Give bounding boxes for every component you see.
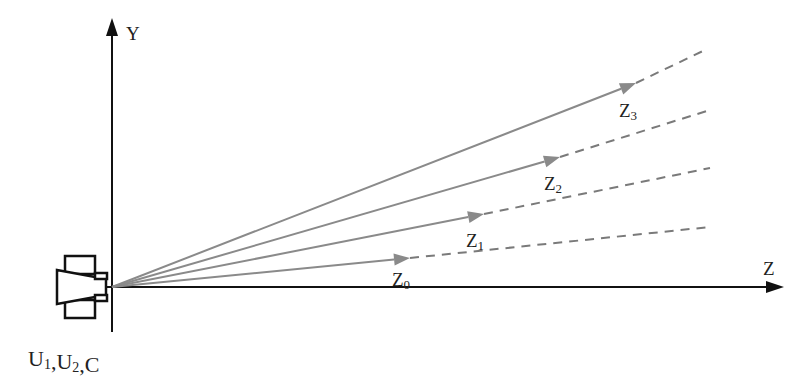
ray-arrowhead-icon — [467, 211, 484, 223]
ray-label: Z3 — [619, 100, 637, 123]
camera-device-icon — [57, 256, 107, 318]
device-label: U1,U2,C — [28, 346, 99, 377]
ray-z3: Z3 — [112, 50, 705, 287]
z-axis-label: Z — [763, 258, 775, 279]
ray-label: Z2 — [544, 173, 562, 196]
ray-arrowhead-icon — [543, 156, 560, 168]
ray-label: Z1 — [466, 230, 484, 253]
ray-z2: Z2 — [112, 110, 710, 287]
ray-arrowhead-icon — [393, 254, 410, 266]
diagram-canvas: Y Z Z0Z1Z2Z3 U1,U2,C — [0, 0, 812, 388]
z-axis-arrowhead-icon — [766, 281, 784, 293]
y-axis-arrowhead-icon — [106, 18, 118, 36]
projection-rays: Z0Z1Z2Z3 — [112, 50, 710, 292]
ray-z1: Z1 — [112, 168, 710, 287]
ray-z0: Z0 — [112, 227, 710, 292]
ray-arrowhead-icon — [619, 83, 636, 94]
y-axis-label: Y — [126, 23, 140, 44]
ray-label: Z0 — [392, 269, 410, 292]
